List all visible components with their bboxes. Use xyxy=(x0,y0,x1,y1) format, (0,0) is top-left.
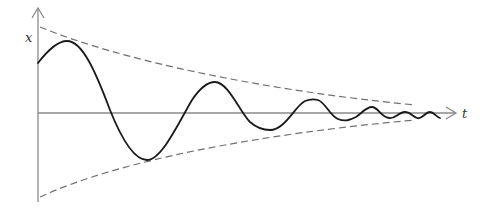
y-axis-label: x xyxy=(25,30,33,45)
oscillation-curve xyxy=(38,41,440,160)
x-axis-label: t xyxy=(462,106,468,121)
lower-envelope xyxy=(40,120,415,197)
vertical-axis xyxy=(32,8,44,202)
upper-envelope xyxy=(40,27,415,105)
damped-oscillation-diagram: x t xyxy=(0,0,489,210)
